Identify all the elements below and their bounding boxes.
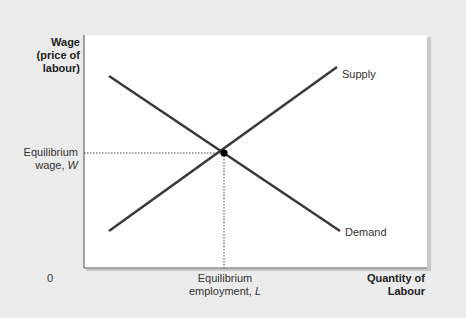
equilibrium-employment-text: employment,	[189, 285, 255, 297]
supply-label: Supply	[342, 68, 376, 81]
x-axis-label: Quantity of Labour	[350, 272, 425, 298]
equilibrium-employment-label: Equilibrium employment, L	[170, 272, 280, 298]
y-axis-label-line: Wage	[10, 36, 80, 49]
equilibrium-wage-label: Equilibrium wage, W	[6, 146, 78, 172]
equilibrium-wage-text: wage,	[35, 159, 67, 171]
y-axis-label: Wage (price of labour)	[10, 36, 80, 75]
equilibrium-point	[220, 149, 227, 156]
y-axis-label-line: (price of	[10, 49, 80, 62]
y-axis-label-line: labour)	[10, 62, 80, 75]
equilibrium-wage-label-line: wage, W	[6, 159, 78, 172]
equilibrium-employment-label-line: employment, L	[170, 285, 280, 298]
employment-variable: L	[255, 285, 261, 297]
x-axis-label-line: Labour	[350, 285, 425, 298]
equilibrium-employment-label-line: Equilibrium	[170, 272, 280, 285]
equilibrium-wage-label-line: Equilibrium	[6, 146, 78, 159]
origin-label: 0	[33, 272, 53, 285]
wage-variable: W	[68, 159, 78, 171]
demand-label: Demand	[345, 226, 387, 239]
x-axis-label-line: Quantity of	[350, 272, 425, 285]
